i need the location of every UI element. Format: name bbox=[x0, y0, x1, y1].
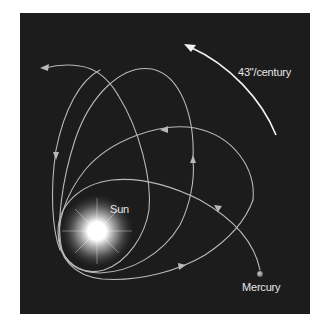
sun-label: Sun bbox=[110, 203, 129, 216]
orbit-4 bbox=[45, 65, 118, 95]
arrow-icon bbox=[190, 155, 196, 163]
arrow-icon bbox=[160, 126, 168, 133]
arrow-icon bbox=[40, 64, 49, 71]
mercury-label: Mercury bbox=[242, 281, 280, 294]
arrow-icon bbox=[178, 263, 186, 270]
precession-arrowhead-icon bbox=[184, 44, 196, 52]
precession-rate-label: 43"/century bbox=[238, 66, 291, 79]
arrow-icon bbox=[214, 205, 222, 212]
precession-arrow bbox=[184, 44, 276, 135]
arrow-icon bbox=[53, 152, 59, 160]
orbit-diagram bbox=[0, 0, 326, 329]
mercury-planet bbox=[257, 271, 263, 277]
